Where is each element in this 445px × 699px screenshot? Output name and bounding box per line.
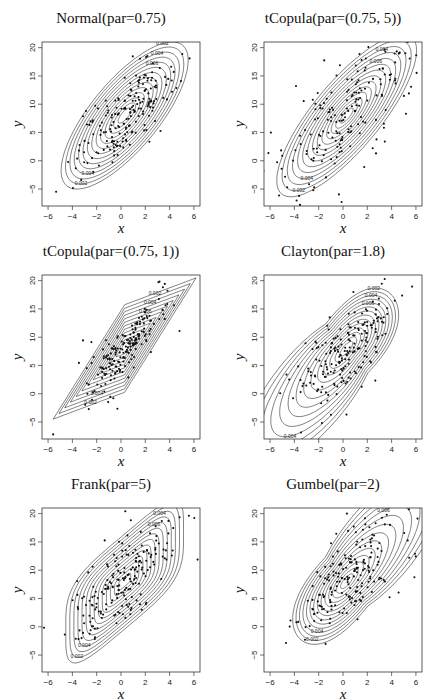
x-tick-label: −6 bbox=[266, 212, 276, 221]
data-point bbox=[80, 179, 82, 181]
data-point bbox=[125, 598, 127, 600]
data-point bbox=[118, 126, 120, 128]
data-point bbox=[395, 82, 397, 84]
data-point bbox=[125, 128, 127, 130]
data-point bbox=[383, 123, 385, 125]
data-point bbox=[340, 564, 342, 566]
data-point bbox=[131, 325, 133, 327]
data-point bbox=[380, 83, 382, 85]
data-point bbox=[113, 146, 115, 148]
data-point bbox=[336, 386, 338, 388]
data-point bbox=[378, 298, 380, 300]
x-tick-label: −4 bbox=[290, 212, 300, 221]
data-point bbox=[401, 295, 403, 297]
data-point bbox=[374, 380, 376, 382]
data-point bbox=[105, 100, 107, 102]
data-point bbox=[172, 549, 174, 551]
y-tick-label: 15 bbox=[28, 71, 37, 80]
data-point bbox=[335, 533, 337, 535]
data-point bbox=[122, 137, 124, 139]
contour-level-label: 0.004 bbox=[144, 299, 157, 305]
data-point bbox=[346, 513, 348, 515]
x-tick-label: 6 bbox=[192, 678, 197, 687]
data-point bbox=[136, 322, 138, 324]
data-point bbox=[292, 397, 294, 399]
data-point bbox=[106, 140, 108, 142]
data-point bbox=[113, 377, 115, 379]
data-point bbox=[323, 608, 325, 610]
data-point bbox=[350, 558, 352, 560]
data-point bbox=[341, 377, 343, 379]
data-point bbox=[103, 593, 105, 595]
data-point bbox=[111, 602, 113, 604]
data-point bbox=[43, 627, 45, 629]
data-point bbox=[384, 333, 386, 335]
data-point bbox=[349, 561, 351, 563]
data-point bbox=[88, 615, 90, 617]
data-point bbox=[89, 621, 91, 623]
contour-line bbox=[96, 83, 153, 149]
data-point bbox=[83, 140, 85, 142]
data-point bbox=[93, 356, 95, 358]
data-point bbox=[370, 552, 372, 554]
data-point bbox=[339, 151, 341, 153]
data-point bbox=[410, 495, 412, 497]
data-point bbox=[366, 100, 368, 102]
data-point bbox=[371, 504, 373, 506]
data-point bbox=[110, 352, 112, 354]
plot-area: −6−4−20246x−505101520y0.0020.0040.0060.0… bbox=[0, 233, 222, 466]
data-point bbox=[328, 579, 330, 581]
data-point bbox=[139, 321, 141, 323]
data-point bbox=[381, 334, 383, 336]
data-point bbox=[348, 596, 350, 598]
data-point bbox=[322, 373, 324, 375]
data-point bbox=[336, 585, 338, 587]
data-point bbox=[355, 544, 357, 546]
y-axis-label: y bbox=[231, 353, 247, 362]
x-axis: −6−4−20246x bbox=[44, 672, 197, 699]
data-point bbox=[133, 336, 135, 338]
data-point bbox=[339, 374, 341, 376]
data-point bbox=[171, 79, 173, 81]
data-point bbox=[300, 391, 302, 393]
y-axis-label: y bbox=[231, 120, 247, 129]
y-tick-label: 15 bbox=[28, 304, 37, 313]
data-point bbox=[91, 596, 93, 598]
data-point bbox=[354, 327, 356, 329]
data-point bbox=[313, 148, 315, 150]
data-point bbox=[341, 150, 343, 152]
data-point bbox=[348, 334, 350, 336]
data-point bbox=[333, 338, 335, 340]
data-point bbox=[299, 135, 301, 137]
data-point bbox=[127, 606, 129, 608]
data-point bbox=[116, 597, 118, 599]
data-point bbox=[331, 363, 333, 365]
data-point bbox=[129, 578, 131, 580]
data-point bbox=[113, 554, 115, 556]
data-point bbox=[134, 341, 136, 343]
data-point bbox=[386, 313, 388, 315]
data-point bbox=[150, 556, 152, 558]
x-tick-label: −6 bbox=[266, 678, 276, 687]
data-point bbox=[354, 110, 356, 112]
data-point bbox=[108, 366, 110, 368]
data-point bbox=[166, 98, 168, 100]
data-point bbox=[367, 46, 369, 48]
data-point bbox=[327, 119, 329, 121]
data-point bbox=[288, 379, 290, 381]
data-point bbox=[353, 343, 355, 345]
data-point bbox=[353, 347, 355, 349]
data-point bbox=[143, 331, 145, 333]
data-point bbox=[360, 366, 362, 368]
data-point bbox=[117, 593, 119, 595]
data-point bbox=[138, 334, 140, 336]
data-point bbox=[357, 123, 359, 125]
data-point bbox=[154, 549, 156, 551]
data-point bbox=[91, 625, 93, 627]
data-point bbox=[116, 557, 118, 559]
data-point bbox=[121, 348, 123, 350]
data-point bbox=[150, 554, 152, 556]
data-point bbox=[166, 303, 168, 305]
data-point bbox=[164, 76, 166, 78]
y-tick-label: 0 bbox=[28, 624, 37, 629]
